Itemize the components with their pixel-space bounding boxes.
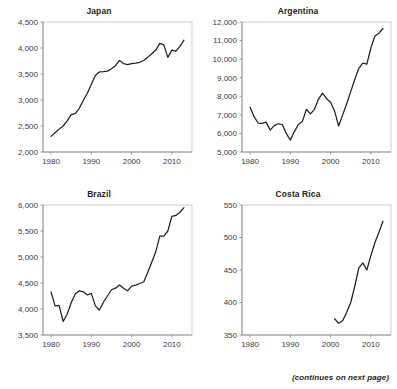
x-tick-label: 1990 (82, 340, 100, 349)
y-tick-label: 350 (224, 331, 238, 340)
x-tick-label: 2000 (123, 157, 141, 166)
y-tick-label: 3,500 (18, 70, 39, 79)
y-tick-label: 11,000 (213, 36, 237, 45)
x-tick-label: 2000 (322, 157, 340, 166)
y-tick-label: 4,500 (18, 279, 39, 288)
figure-page: Japan 2,0002,5003,0003,5004,0004,5001980… (0, 0, 397, 389)
x-tick-label: 1990 (281, 157, 299, 166)
y-tick-label: 400 (224, 298, 238, 307)
y-tick-label: 3,000 (18, 96, 39, 105)
line-chart-costa-rica: 3504004505005501980199020002010 (199, 183, 397, 363)
data-series-line (51, 40, 184, 136)
line-chart-brazil: 3,5004,0004,5005,0005,5006,0001980199020… (0, 183, 198, 363)
x-tick-label: 1980 (42, 157, 60, 166)
y-tick-label: 500 (224, 233, 238, 242)
data-series-line (250, 29, 383, 141)
chart-panel-costa-rica: Costa Rica 35040045050055019801990200020… (199, 183, 397, 363)
x-tick-label: 2010 (362, 340, 380, 349)
y-tick-label: 2,000 (18, 148, 39, 157)
y-tick-label: 8,000 (217, 92, 238, 101)
y-tick-label: 5,000 (18, 253, 39, 262)
data-series-line (51, 208, 184, 322)
x-tick-label: 2010 (163, 157, 181, 166)
y-tick-label: 6,000 (217, 129, 238, 138)
y-tick-label: 550 (224, 201, 238, 210)
y-tick-label: 10,000 (213, 55, 238, 64)
line-chart-argentina: 5,0006,0007,0008,0009,00010,00011,00012,… (199, 0, 397, 180)
y-tick-label: 5,000 (217, 148, 238, 157)
y-tick-label: 5,500 (18, 227, 39, 236)
line-chart-japan: 2,0002,5003,0003,5004,0004,5001980199020… (0, 0, 198, 180)
y-tick-label: 4,000 (18, 44, 39, 53)
y-tick-label: 12,000 (213, 18, 238, 27)
continues-note: (continues on next page) (292, 373, 389, 382)
data-series-line (335, 221, 383, 323)
x-tick-label: 2010 (362, 157, 380, 166)
x-tick-label: 2000 (123, 340, 141, 349)
x-tick-label: 1980 (241, 157, 259, 166)
y-tick-label: 3,500 (18, 331, 39, 340)
chart-grid: Japan 2,0002,5003,0003,5004,0004,5001980… (0, 0, 397, 360)
x-tick-label: 2010 (163, 340, 181, 349)
y-tick-label: 4,500 (18, 18, 39, 27)
chart-panel-brazil: Brazil 3,5004,0004,5005,0005,5006,000198… (0, 183, 198, 363)
chart-panel-argentina: Argentina 5,0006,0007,0008,0009,00010,00… (199, 0, 397, 180)
x-tick-label: 1980 (42, 340, 60, 349)
y-tick-label: 7,000 (217, 111, 238, 120)
x-tick-label: 1980 (241, 340, 259, 349)
x-tick-label: 1990 (281, 340, 299, 349)
y-tick-label: 9,000 (217, 74, 238, 83)
x-tick-label: 2000 (322, 340, 340, 349)
y-tick-label: 4,000 (18, 305, 39, 314)
chart-panel-japan: Japan 2,0002,5003,0003,5004,0004,5001980… (0, 0, 198, 180)
x-tick-label: 1990 (82, 157, 100, 166)
y-tick-label: 6,000 (18, 201, 39, 210)
y-tick-label: 2,500 (18, 122, 39, 131)
y-tick-label: 450 (224, 266, 238, 275)
